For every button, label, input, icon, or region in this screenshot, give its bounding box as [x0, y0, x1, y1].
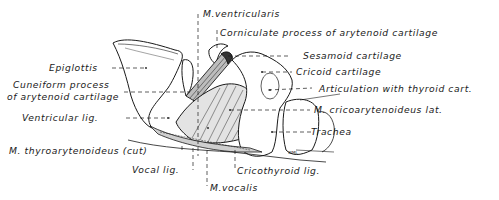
label-vocal-lig: Vocal lig. [132, 165, 179, 175]
label-m-ventricularis: M.ventricularis [203, 9, 280, 19]
label-articulation-thyroid: Articulation with thyroid cart. [319, 84, 472, 94]
label-m-thyroarytenoideus: M. thyroarytenoideus (cut) [9, 146, 147, 156]
label-trachea: Trachea [311, 127, 352, 137]
label-corniculate-process: Corniculate process of arytenoid cartila… [220, 28, 438, 38]
artist-signature: WML [288, 150, 298, 155]
anatomical-figure: WML M.ventricularis Corniculate process … [0, 0, 499, 200]
label-ventricular-lig: Ventricular lig. [22, 113, 98, 123]
label-m-cricoarytenoideus-lat: M. cricoarytenoideus lat. [314, 105, 443, 115]
label-epiglottis: Epiglottis [49, 63, 98, 73]
label-cricothyroid-lig: Cricothyroid lig. [237, 166, 320, 176]
label-cricoid-cartilage: Cricoid cartilage [296, 67, 381, 77]
label-m-vocalis: M.vocalis [210, 183, 258, 193]
label-cuneiform-process: Cuneiform process [13, 80, 109, 90]
epiglottis-shape [113, 40, 182, 128]
label-sesamoid-cartilage: Sesamoid cartilage [303, 51, 402, 61]
label-cuneiform-process-line2: of arytenoid cartilage [7, 92, 119, 102]
